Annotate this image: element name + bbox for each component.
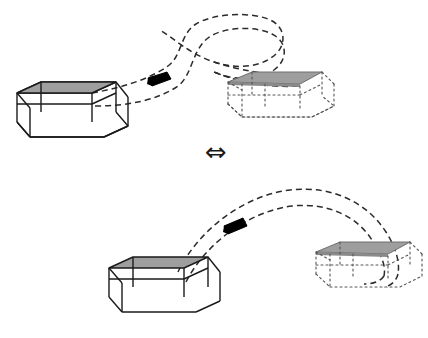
equivalence-symbol: ⇔ — [196, 136, 236, 168]
flat-box-right-edge — [322, 72, 334, 84]
arc-dashed-trajectory — [178, 189, 399, 287]
box-edge-front-left-down — [17, 93, 30, 108]
diagram-svg — [0, 0, 428, 338]
top-panel — [17, 15, 334, 137]
flat-box-bottom-left-diag — [228, 104, 242, 117]
solid-box-top-left — [17, 82, 128, 137]
looping-dashed-trajectory — [92, 15, 300, 106]
box-edge-bottom-left-diag — [17, 122, 30, 137]
box2-edge-bottom-left-diag — [109, 297, 122, 312]
box-edge-right-side — [116, 82, 128, 97]
box-edge-bottom-right-diag — [104, 126, 128, 137]
box2-edge-bottom-right-diag — [196, 301, 220, 312]
box2-edge-front-left-down — [109, 268, 122, 283]
flattened-box-top-right — [228, 72, 334, 117]
diagram-canvas: ⇔ — [0, 0, 428, 338]
flat-box2-top-face — [316, 242, 410, 254]
box-top-face-right — [17, 82, 116, 93]
trajectory-strand-b — [95, 28, 284, 106]
bottom-panel — [109, 189, 422, 312]
box2-edge-right-side — [208, 257, 220, 272]
flat-box-top-face — [228, 72, 322, 84]
box-edge-back-bottom-right — [92, 93, 116, 104]
solid-box-bottom-left — [109, 257, 220, 312]
flat-box2-bottom-left-diag — [316, 274, 330, 287]
flat-box2-right-edge — [410, 242, 422, 254]
arc-tail-a — [384, 274, 398, 287]
arc-tail-b — [364, 276, 384, 284]
flat-box2-inner-horiz-right — [388, 254, 410, 265]
box-bottom-top-face — [109, 257, 208, 268]
flat-box-inner-horiz-right — [300, 84, 322, 95]
box2-edge-back-bottom-right — [184, 268, 208, 279]
flat-box-bottom-right-diag — [312, 106, 334, 117]
flat-box2-bottom-right-diag — [400, 276, 422, 287]
flattened-box-bottom-right — [316, 242, 422, 287]
